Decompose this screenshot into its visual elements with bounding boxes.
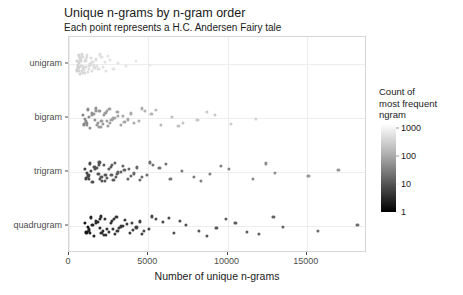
data-point <box>93 167 96 170</box>
data-point <box>84 221 87 224</box>
data-point <box>98 109 101 112</box>
data-point <box>97 67 100 70</box>
data-point <box>101 65 104 68</box>
data-point <box>107 124 110 127</box>
data-point <box>135 226 138 229</box>
legend-tick-mark <box>396 212 399 213</box>
data-point <box>109 58 112 61</box>
data-point <box>129 174 132 177</box>
data-point <box>116 111 119 114</box>
data-point <box>109 165 112 168</box>
x-tick-label-5000: 5000 <box>137 256 157 266</box>
data-point <box>83 71 86 74</box>
data-point <box>151 164 154 167</box>
data-point <box>94 58 97 61</box>
data-point <box>111 219 114 222</box>
data-point <box>120 123 123 126</box>
data-point <box>104 217 107 220</box>
data-point <box>92 234 95 237</box>
data-point <box>138 220 141 223</box>
data-point <box>105 176 108 179</box>
legend: Count of most frequent ngram 1000100101 <box>379 86 463 121</box>
data-point <box>94 110 97 113</box>
y-tick-mark <box>65 225 68 226</box>
plot-panel <box>68 36 366 252</box>
data-point <box>77 66 80 69</box>
data-point <box>182 121 185 124</box>
data-point <box>87 174 90 177</box>
data-point <box>115 172 118 175</box>
data-point <box>150 112 153 115</box>
data-point <box>84 57 87 60</box>
data-point <box>155 218 158 221</box>
data-point <box>87 64 90 67</box>
data-point <box>108 107 111 110</box>
data-point <box>132 172 135 175</box>
chart-subtitle: Each point represents a H.C. Andersen Fa… <box>64 22 281 33</box>
data-point <box>114 232 117 235</box>
data-point <box>138 178 141 181</box>
data-point <box>81 113 84 116</box>
data-point <box>103 179 106 182</box>
data-point <box>89 216 92 219</box>
data-point <box>88 126 91 129</box>
data-point <box>245 230 248 233</box>
gridline-vertical <box>307 37 308 251</box>
data-point <box>254 118 257 121</box>
data-point <box>123 120 126 123</box>
data-point <box>129 112 132 115</box>
data-point <box>124 219 127 222</box>
data-point <box>151 215 154 218</box>
data-point <box>88 228 91 231</box>
legend-title-line-3: ngram <box>379 109 463 121</box>
data-point <box>126 118 129 121</box>
data-point <box>147 227 150 230</box>
y-tick-label-bigram: bigram <box>0 112 62 122</box>
chart-title: Unique n-grams by n-gram order <box>64 6 245 20</box>
data-point <box>112 67 115 70</box>
x-tick-label-10000: 10000 <box>214 256 239 266</box>
data-point <box>113 161 116 164</box>
data-point <box>158 166 161 169</box>
data-point <box>273 172 276 175</box>
data-point <box>96 121 99 124</box>
gridline-horizontal <box>69 64 365 65</box>
data-point <box>213 113 216 116</box>
legend-tick-mark <box>396 128 399 129</box>
data-point <box>104 111 107 114</box>
data-point <box>148 64 151 67</box>
data-point <box>172 231 175 234</box>
x-tick-mark <box>68 252 69 255</box>
data-point <box>307 174 310 177</box>
data-point <box>137 119 140 122</box>
data-point <box>164 162 167 165</box>
data-point <box>90 113 93 116</box>
x-tick-mark <box>147 252 148 255</box>
gridline-horizontal <box>69 172 365 173</box>
data-point <box>117 226 120 229</box>
data-point <box>90 69 93 72</box>
data-point <box>215 227 218 230</box>
legend-colorbar <box>381 124 396 212</box>
data-point <box>208 173 211 176</box>
legend-tick-label-100: 100 <box>401 151 416 161</box>
data-point <box>111 228 114 231</box>
gridline-vertical <box>148 37 149 251</box>
y-tick-label-quadrugram: quadrugram <box>0 220 62 230</box>
data-point <box>134 59 137 62</box>
data-point <box>196 119 199 122</box>
data-point <box>110 174 113 177</box>
data-point <box>143 229 146 232</box>
data-point <box>102 163 105 166</box>
data-point <box>101 229 104 232</box>
data-point <box>115 215 118 218</box>
data-point <box>140 233 143 236</box>
data-point <box>197 229 200 232</box>
data-point <box>178 219 181 222</box>
data-point <box>264 162 267 165</box>
data-point <box>167 216 170 219</box>
legend-tick-label-1: 1 <box>401 207 406 217</box>
data-point <box>124 65 127 68</box>
data-point <box>258 232 261 235</box>
data-point <box>136 166 139 169</box>
